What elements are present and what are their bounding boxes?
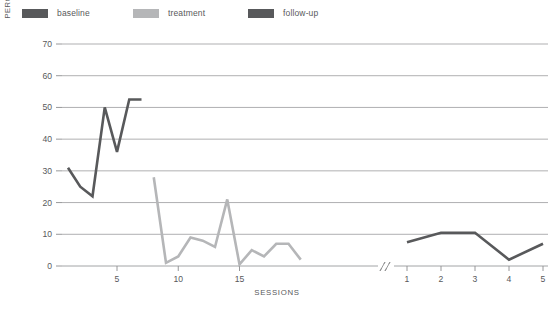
- plot-svg: [0, 0, 554, 311]
- x-tick-label-sessions-followup-2: 2: [430, 275, 452, 284]
- y-tick-label-40: 40: [30, 135, 52, 144]
- series-line-baseline: [68, 100, 142, 197]
- y-tick-label-20: 20: [30, 199, 52, 208]
- series-line-treatment: [154, 177, 301, 264]
- y-tick-label-60: 60: [30, 72, 52, 81]
- x-tick-label-sessions-main-10: 10: [167, 275, 189, 284]
- series-line-follow-up: [407, 233, 543, 260]
- x-tick-label-sessions-followup-4: 4: [498, 275, 520, 284]
- y-tick-label-70: 70: [30, 40, 52, 49]
- axis-break-gap: [378, 264, 394, 268]
- x-tick-label-sessions-followup-3: 3: [464, 275, 486, 284]
- y-tick-label-30: 30: [30, 167, 52, 176]
- x-tick-label-sessions-followup-1: 1: [396, 275, 418, 284]
- x-tick-label-sessions-followup-5: 5: [532, 275, 554, 284]
- chart-figure: baseline treatment follow-up PERCENTAGE …: [0, 0, 554, 311]
- plot-area: 0102030405060705101512345: [0, 0, 554, 311]
- y-tick-label-50: 50: [30, 103, 52, 112]
- x-tick-label-sessions-main-5: 5: [106, 275, 128, 284]
- x-tick-label-sessions-main-15: 15: [229, 275, 251, 284]
- y-tick-label-0: 0: [30, 262, 52, 271]
- y-tick-label-10: 10: [30, 230, 52, 239]
